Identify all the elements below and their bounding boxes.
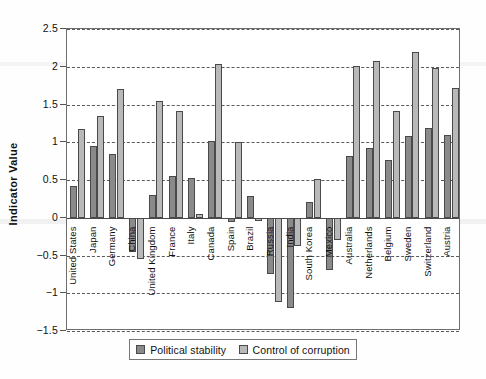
bar-political-stability bbox=[287, 218, 294, 309]
bar-group bbox=[126, 29, 146, 329]
y-tick-label-4: 0.5 bbox=[43, 173, 58, 185]
bar-political-stability bbox=[247, 196, 254, 218]
bar-control-of-corruption bbox=[235, 142, 242, 218]
y-tick-label-1: 2 bbox=[52, 60, 58, 72]
plot-area bbox=[66, 28, 460, 330]
bar-control-of-corruption bbox=[117, 89, 124, 217]
bar-political-stability bbox=[90, 146, 97, 218]
bar-group bbox=[402, 29, 422, 329]
bar-group bbox=[422, 29, 442, 329]
bar-political-stability bbox=[346, 156, 353, 218]
chart-figure: Indicator Value 2.521.510.50−0.5−1−1.5 U… bbox=[0, 0, 486, 379]
bar-group bbox=[323, 29, 343, 329]
bar-political-stability bbox=[444, 135, 451, 218]
bar-control-of-corruption bbox=[275, 218, 282, 303]
bar-group bbox=[343, 29, 363, 329]
bar-political-stability bbox=[425, 128, 432, 218]
bar-group bbox=[303, 29, 323, 329]
y-tick-label-6: −0.5 bbox=[36, 249, 58, 261]
bar-series-container bbox=[67, 29, 459, 329]
bar-political-stability bbox=[228, 218, 235, 222]
bar-group bbox=[244, 29, 264, 329]
bar-control-of-corruption bbox=[97, 116, 104, 218]
bar-control-of-corruption bbox=[373, 61, 380, 218]
bar-group bbox=[363, 29, 383, 329]
bar-control-of-corruption bbox=[353, 66, 360, 218]
bar-political-stability bbox=[169, 176, 176, 218]
bar-group bbox=[185, 29, 205, 329]
bar-group bbox=[382, 29, 402, 329]
bar-control-of-corruption bbox=[393, 111, 400, 218]
bar-control-of-corruption bbox=[334, 218, 341, 241]
bar-control-of-corruption bbox=[412, 52, 419, 218]
bar-political-stability bbox=[366, 148, 373, 218]
legend-label-series-2: Control of corruption bbox=[253, 344, 350, 356]
bar-group bbox=[146, 29, 166, 329]
series-1-swatch-icon bbox=[136, 345, 145, 354]
y-tick-label-3: 1 bbox=[52, 135, 58, 147]
bar-political-stability bbox=[405, 136, 412, 218]
bar-control-of-corruption bbox=[215, 64, 222, 217]
y-axis-title: Indicator Value bbox=[7, 99, 19, 269]
y-tick-label-5: 0 bbox=[52, 211, 58, 223]
bar-political-stability bbox=[188, 178, 195, 218]
bar-control-of-corruption bbox=[156, 101, 163, 217]
bar-control-of-corruption bbox=[176, 111, 183, 217]
bar-group bbox=[441, 29, 461, 329]
legend-label-series-1: Political stability bbox=[150, 344, 226, 356]
bar-group bbox=[205, 29, 225, 329]
y-tick-label-7: −1 bbox=[46, 286, 58, 298]
series-2-swatch-icon bbox=[239, 345, 248, 354]
y-tick-label-8: −1.5 bbox=[36, 324, 58, 336]
bar-control-of-corruption bbox=[452, 88, 459, 218]
bar-group bbox=[225, 29, 245, 329]
bar-group bbox=[264, 29, 284, 329]
bar-political-stability bbox=[149, 195, 156, 218]
bar-political-stability bbox=[208, 141, 215, 217]
y-tick-mark-8 bbox=[60, 330, 66, 331]
y-tick-label-0: 2.5 bbox=[43, 22, 58, 34]
bar-political-stability bbox=[385, 160, 392, 218]
bar-group bbox=[87, 29, 107, 329]
bar-political-stability bbox=[109, 154, 116, 218]
bar-group bbox=[67, 29, 87, 329]
bar-political-stability bbox=[267, 218, 274, 274]
bar-group bbox=[106, 29, 126, 329]
bar-control-of-corruption bbox=[255, 218, 262, 221]
bar-control-of-corruption bbox=[314, 179, 321, 218]
chart-legend: Political stability Control of corruptio… bbox=[129, 339, 357, 360]
bar-group bbox=[284, 29, 304, 329]
legend-item-control-of-corruption: Control of corruption bbox=[239, 344, 350, 356]
bar-control-of-corruption bbox=[78, 129, 85, 218]
bar-group bbox=[166, 29, 186, 329]
legend-item-political-stability: Political stability bbox=[136, 344, 226, 356]
bar-control-of-corruption bbox=[432, 68, 439, 218]
bar-control-of-corruption bbox=[137, 218, 144, 259]
y-tick-label-2: 1.5 bbox=[43, 98, 58, 110]
y-axis: Indicator Value 2.521.510.50−0.5−1−1.5 bbox=[0, 28, 66, 330]
bar-political-stability bbox=[306, 202, 313, 218]
bar-control-of-corruption bbox=[196, 214, 203, 218]
bar-political-stability bbox=[70, 186, 77, 218]
bar-control-of-corruption bbox=[294, 218, 301, 247]
gridline--1.5 bbox=[67, 331, 459, 332]
bar-political-stability bbox=[326, 218, 333, 270]
bar-political-stability bbox=[129, 218, 136, 253]
